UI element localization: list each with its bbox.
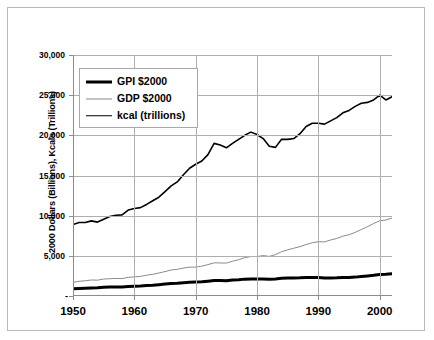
legend-label-kcal: kcal (trillions) [117, 110, 185, 121]
chart-figure: 2000 Dollars (Billions), Kcals (Trillion… [0, 0, 434, 340]
y-tick-mark [69, 256, 73, 257]
x-tick-label: 1950 [60, 305, 86, 317]
x-axis-line [73, 295, 392, 296]
x-tick-label: 2000 [367, 305, 393, 317]
gridline-horizontal [73, 55, 392, 56]
x-tick-label: 1990 [306, 305, 332, 317]
gridline-vertical [380, 55, 381, 296]
gridline-vertical [257, 55, 258, 296]
y-tick-mark [69, 95, 73, 96]
gridline-horizontal [73, 176, 392, 177]
legend-swatch-gdp-line-icon [86, 96, 112, 102]
legend-item-gdp: GDP $2000 [80, 90, 197, 107]
y-tick-label: 30,000 [39, 50, 65, 60]
gridline-horizontal [73, 256, 392, 257]
legend-swatch-kcal-line-icon [86, 113, 112, 119]
y-tick-label: 15,000 [39, 171, 65, 181]
gridline-horizontal [73, 135, 392, 136]
x-tick-mark [257, 296, 258, 300]
x-tick-mark [380, 296, 381, 300]
legend-item-gpi: GPI $2000 [80, 73, 197, 90]
legend-label-gpi: GPI $2000 [117, 76, 167, 87]
x-tick-mark [134, 296, 135, 300]
y-tick-mark [69, 176, 73, 177]
x-tick-label: 1980 [244, 305, 270, 317]
series-line-gpi [73, 274, 392, 289]
y-tick-label: - [65, 291, 68, 301]
chart-legend: GPI $2000 GDP $2000 kcal (trillions) [79, 68, 198, 128]
y-tick-label: 5,000 [44, 251, 65, 261]
legend-item-kcal: kcal (trillions) [80, 107, 197, 124]
x-tick-mark [318, 296, 319, 300]
y-tick-mark [69, 55, 73, 56]
x-tick-mark [196, 296, 197, 300]
y-tick-label: 20,000 [39, 130, 65, 140]
y-tick-mark [69, 216, 73, 217]
x-tick-mark [73, 296, 74, 300]
y-tick-label: 10,000 [39, 211, 65, 221]
y-tick-label: 25,000 [39, 90, 65, 100]
y-tick-mark [69, 135, 73, 136]
y-axis-line [73, 55, 74, 296]
x-tick-label: 1970 [183, 305, 209, 317]
gridline-horizontal [73, 216, 392, 217]
legend-label-gdp: GDP $2000 [117, 93, 172, 104]
x-tick-label: 1960 [122, 305, 148, 317]
legend-swatch-gpi-line-icon [86, 79, 112, 85]
gridline-vertical [318, 55, 319, 296]
series-line-gdp [73, 218, 392, 282]
